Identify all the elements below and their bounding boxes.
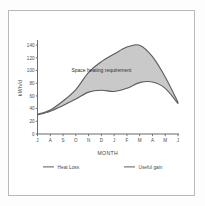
- legend-label: Useful gain: [139, 165, 163, 170]
- x-tick-label: J: [177, 138, 179, 143]
- y-tick-label: 100: [27, 68, 35, 73]
- x-axis-tick-labels: JASONDJFMAMJ: [36, 138, 179, 143]
- y-axis-tick-labels: 020406080100120140: [27, 43, 35, 137]
- x-tick-label: F: [126, 138, 129, 143]
- figure-canvas: 020406080100120140 JASONDJFMAMJ Space he…: [0, 0, 205, 206]
- y-tick-label: 20: [29, 119, 35, 124]
- legend-item[interactable]: Heat Loss: [43, 165, 80, 170]
- x-tick-label: D: [100, 138, 104, 143]
- legend-label: Heat Loss: [58, 165, 80, 170]
- y-tick-label: 120: [27, 56, 35, 61]
- legend-item[interactable]: Useful gain: [124, 165, 163, 170]
- x-tick-label: S: [62, 138, 65, 143]
- y-axis-title: kWh/d: [17, 80, 23, 96]
- x-tick-label: M: [163, 138, 167, 143]
- y-tick-label: 60: [29, 94, 35, 99]
- y-tick-label: 40: [29, 106, 35, 111]
- y-tick-label: 0: [32, 132, 35, 137]
- x-axis-title: MONTH: [97, 150, 118, 156]
- y-tick-label: 80: [29, 81, 35, 86]
- x-tick-label: A: [151, 138, 155, 143]
- x-tick-label: A: [49, 138, 53, 143]
- chart-area: 020406080100120140 JASONDJFMAMJ Space he…: [0, 0, 205, 206]
- chart-legend: Heat LossUseful gain: [43, 165, 163, 170]
- x-tick-label: N: [87, 138, 90, 143]
- x-tick-label: J: [113, 138, 115, 143]
- x-tick-label: M: [138, 138, 142, 143]
- y-tick-label: 140: [27, 43, 35, 48]
- band-annotation-label: Space heating requirement: [71, 67, 132, 73]
- x-tick-label: J: [36, 138, 38, 143]
- space-heating-chart: 020406080100120140 JASONDJFMAMJ Space he…: [0, 0, 205, 206]
- x-tick-label: O: [74, 138, 78, 143]
